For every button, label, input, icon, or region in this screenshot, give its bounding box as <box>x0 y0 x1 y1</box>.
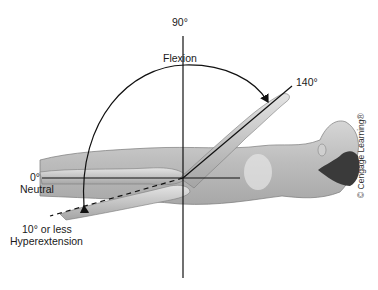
label-90-degrees: 90° <box>172 16 188 28</box>
ear-shape <box>318 144 326 156</box>
body-illustration <box>40 94 360 220</box>
label-10-degrees-or-less: 10° or less <box>22 223 72 235</box>
label-0-degrees: 0° <box>30 171 40 183</box>
copyright-notice: © Cengage Learning® <box>356 113 366 198</box>
label-140-degrees: 140° <box>296 76 318 88</box>
label-hyperextension: Hyperextension <box>10 235 83 247</box>
label-neutral: Neutral <box>20 183 54 195</box>
rom-diagram: 90° Flexion 140° 0° Neutral 10° or less … <box>0 0 378 290</box>
arm-neutral <box>40 168 186 185</box>
label-flexion: Flexion <box>163 52 197 64</box>
chest-highlight <box>244 154 272 190</box>
